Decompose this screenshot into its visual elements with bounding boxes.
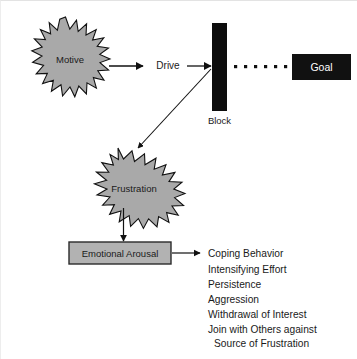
path-dot: [234, 65, 237, 68]
flow-diagram: Motive Drive Block Goal: [1, 1, 357, 359]
arrow-block-to-frustration: [138, 69, 211, 148]
node-block[interactable]: Block: [208, 23, 231, 126]
node-frustration[interactable]: Frustration: [94, 148, 185, 228]
path-dot: [274, 65, 277, 68]
path-dot: [284, 65, 287, 68]
frustration-label: Frustration: [111, 183, 156, 194]
node-motive[interactable]: Motive: [32, 17, 110, 97]
block-label: Block: [208, 115, 231, 126]
outcome-item: Join with Others against: [208, 324, 317, 335]
outcome-list: Coping Behavior Intensifying Effort Pers…: [208, 248, 317, 349]
path-dot: [244, 65, 247, 68]
outcome-item: Withdrawal of Interest: [208, 309, 307, 320]
motive-label: Motive: [56, 54, 84, 65]
outcome-item: Persistence: [208, 279, 262, 290]
outcome-item: Intensifying Effort: [208, 264, 287, 275]
emotional-arousal-label: Emotional Arousal: [82, 248, 159, 259]
diagram-canvas: Motive Drive Block Goal: [0, 0, 357, 359]
block-bar-shape: [212, 23, 227, 111]
drive-label: Drive: [156, 60, 180, 71]
node-goal[interactable]: Goal: [292, 54, 351, 80]
path-dot: [254, 65, 257, 68]
goal-label: Goal: [310, 61, 332, 73]
node-emotional-arousal[interactable]: Emotional Arousal: [69, 242, 171, 264]
outcome-item: Coping Behavior: [208, 248, 284, 259]
blocked-path-to-goal: [234, 65, 287, 68]
path-dot: [264, 65, 267, 68]
outcome-item: Aggression: [208, 294, 259, 305]
outcome-item-continuation: Source of Frustration: [214, 338, 309, 349]
